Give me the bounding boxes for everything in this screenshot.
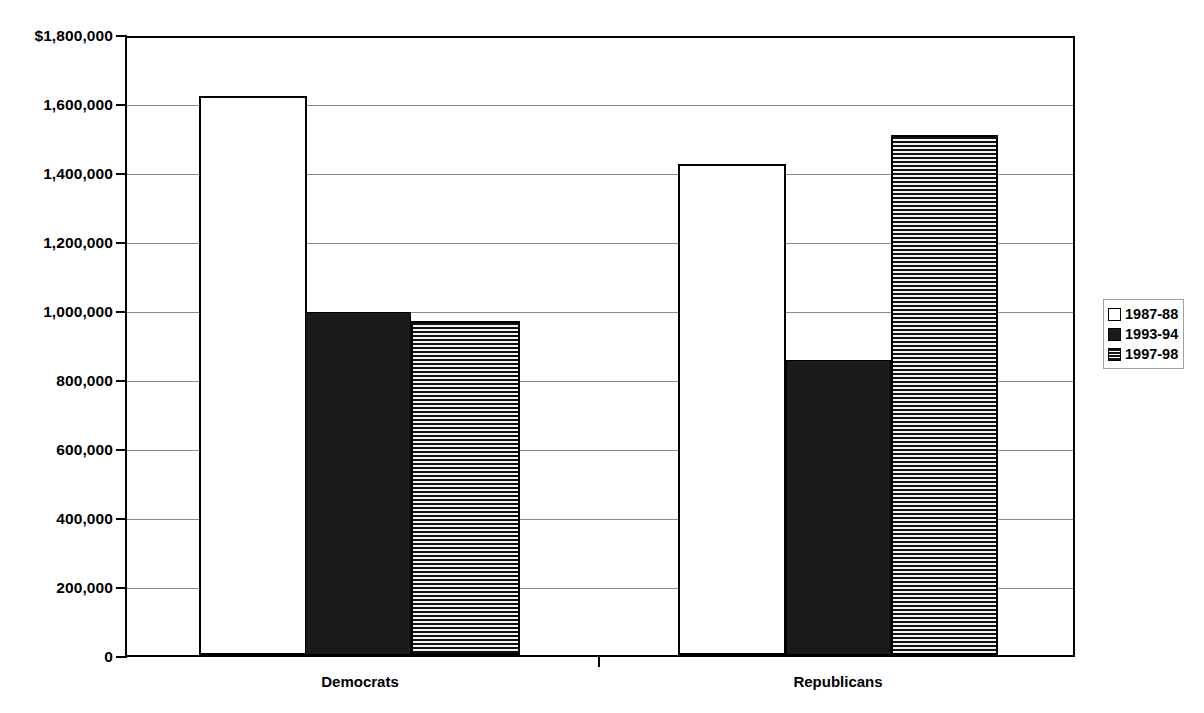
- legend-swatch-icon: [1108, 328, 1121, 341]
- bar-republicans-1997-98: [891, 135, 998, 655]
- y-axis-tick-label: 1,000,000: [0, 303, 113, 321]
- legend-item-label: 1987-88: [1125, 307, 1178, 322]
- y-axis-tick-label: $1,800,000: [0, 27, 113, 45]
- plot-area: [125, 36, 1075, 657]
- legend-item-label: 1997-98: [1125, 347, 1178, 362]
- bar-republicans-1993-94: [786, 360, 891, 655]
- legend-swatch-icon: [1108, 348, 1121, 361]
- x-axis-tick-mark: [598, 657, 600, 667]
- y-axis-tick-label: 0: [0, 648, 113, 666]
- y-axis: 0200,000400,000600,000800,0001,000,0001,…: [0, 0, 113, 713]
- y-axis-tick-label: 400,000: [0, 510, 113, 528]
- y-axis-tick-label: 200,000: [0, 579, 113, 597]
- y-axis-tick-label: 600,000: [0, 441, 113, 459]
- bar-democrats-1987-88: [199, 96, 307, 655]
- legend-item: 1987-88: [1108, 304, 1178, 324]
- y-axis-tick-label: 1,200,000: [0, 234, 113, 252]
- x-axis-category-label: Republicans: [793, 673, 882, 690]
- y-axis-tick-label: 1,600,000: [0, 96, 113, 114]
- legend-swatch-icon: [1108, 308, 1121, 321]
- y-axis-tick-label: 1,400,000: [0, 165, 113, 183]
- legend-item: 1997-98: [1108, 344, 1178, 364]
- legend-item: 1993-94: [1108, 324, 1178, 344]
- bar-democrats-1997-98: [411, 321, 520, 655]
- bar-republicans-1987-88: [678, 164, 786, 655]
- y-axis-tick-label: 800,000: [0, 372, 113, 390]
- legend-item-label: 1993-94: [1125, 327, 1178, 342]
- x-axis-category-label: Democrats: [321, 673, 399, 690]
- bar-chart: 0200,000400,000600,000800,0001,000,0001,…: [0, 0, 1204, 713]
- chart-legend: 1987-881993-941997-98: [1103, 299, 1184, 369]
- bar-democrats-1993-94: [305, 312, 411, 655]
